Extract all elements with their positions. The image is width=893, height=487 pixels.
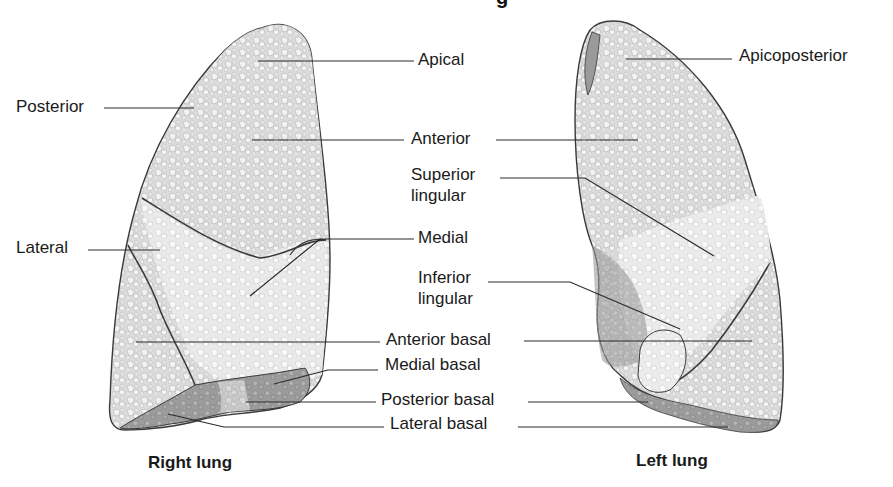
diagram-title-fragment: g <box>496 0 508 9</box>
label-posterior: Posterior <box>16 97 84 116</box>
right-lung-illustration <box>110 25 330 430</box>
label-lateral: Lateral <box>16 238 68 257</box>
left-lung-illustration <box>575 21 783 432</box>
label-superior-lingular-line2: lingular <box>411 186 466 205</box>
caption-left-lung: Left lung <box>636 451 708 471</box>
label-lateral-basal: Lateral basal <box>390 414 487 433</box>
label-anterior-basal: Anterior basal <box>386 330 491 349</box>
label-inferior-lingular-line1: Inferior <box>418 268 471 287</box>
label-posterior-basal: Posterior basal <box>381 390 494 409</box>
label-anterior-right: Anterior <box>411 129 471 148</box>
label-superior-lingular-line1: Superior <box>411 165 475 184</box>
label-medial: Medial <box>418 228 468 247</box>
label-medial-basal: Medial basal <box>385 355 480 374</box>
label-inferior-lingular-line2: lingular <box>418 289 473 308</box>
caption-right-lung: Right lung <box>148 453 232 473</box>
label-apicoposterior: Apicoposterior <box>739 46 848 65</box>
label-apical: Apical <box>418 50 464 69</box>
